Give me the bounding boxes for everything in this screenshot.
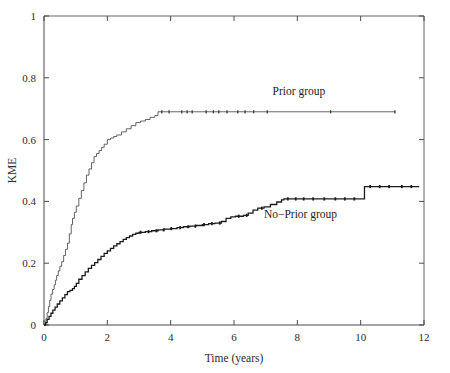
curves-group: [44, 112, 419, 325]
x-tick-label: 2: [105, 331, 111, 343]
y-tick-label: 0.4: [22, 195, 36, 207]
x-tick-label: 8: [295, 331, 301, 343]
x-tick-label: 12: [419, 331, 430, 343]
series-label-0: Prior group: [273, 85, 326, 98]
y-tick-label: 0.8: [22, 72, 36, 84]
series-line-1: [44, 187, 419, 325]
y-tick-label: 1: [31, 10, 37, 22]
axis-spines: [44, 16, 424, 325]
series-labels-group: Prior groupNo−Prior group: [264, 85, 337, 222]
x-tick-label: 4: [168, 331, 174, 343]
x-tick-label: 6: [231, 331, 237, 343]
kaplan-meier-figure: 02468101200.20.40.60.81 Prior groupNo−Pr…: [0, 0, 450, 373]
x-tick-label: 10: [355, 331, 367, 343]
x-tick-label: 0: [41, 331, 47, 343]
y-tick-label: 0.2: [22, 257, 36, 269]
x-axis-title: Time (years): [205, 352, 264, 365]
series-line-0: [44, 112, 396, 325]
axis-frame: [44, 16, 424, 325]
chart-canvas: 02468101200.20.40.60.81 Prior groupNo−Pr…: [0, 0, 450, 373]
y-axis-title: KME: [6, 158, 18, 184]
axes-group: [44, 16, 424, 325]
y-tick-label: 0: [31, 319, 37, 331]
y-tick-label: 0.6: [22, 134, 36, 146]
ticks-group: 02468101200.20.40.60.81: [22, 10, 429, 343]
series-label-1: No−Prior group: [264, 208, 337, 221]
